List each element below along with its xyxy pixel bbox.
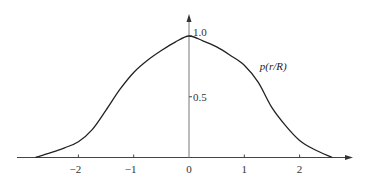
x-axis-arrow-icon	[345, 155, 353, 160]
x-tick-label: −2	[70, 163, 82, 175]
x-tick-label: 0	[186, 163, 192, 175]
curve-label: p(r/R)	[259, 60, 287, 73]
chart: −2−10120.51.0 p(r/R)	[0, 0, 368, 183]
x-tick-label: 2	[297, 163, 303, 175]
axes: −2−10120.51.0	[17, 14, 353, 175]
y-axis-arrow-icon	[187, 14, 192, 22]
x-tick-label: −1	[125, 163, 137, 175]
data-curve	[35, 36, 332, 158]
y-tick-label: 1.0	[193, 26, 207, 38]
x-tick-label: 1	[242, 163, 248, 175]
y-tick-label: 0.5	[193, 91, 207, 103]
